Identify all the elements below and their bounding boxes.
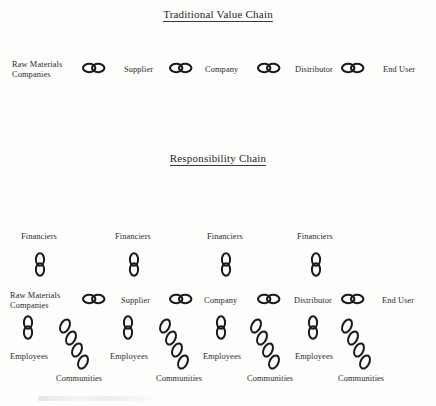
chain-link-icon-financiers-3 bbox=[220, 252, 232, 278]
section-title-traditional-text: Traditional Value Chain bbox=[163, 8, 273, 22]
traditional-node-end-user: End User bbox=[383, 65, 415, 75]
communities-label-4: Communities bbox=[338, 374, 384, 384]
section-title-traditional-value-chain: Traditional Value Chain bbox=[0, 8, 436, 20]
chain-link-icon-communities-3 bbox=[247, 318, 283, 376]
traditional-node-company: Company bbox=[205, 65, 238, 75]
financiers-label-4: Financiers bbox=[297, 232, 333, 242]
chain-link-icon-employees-1 bbox=[22, 315, 34, 341]
traditional-node-raw-materials-companies: Raw Materials Companies bbox=[12, 60, 62, 80]
employees-label-1: Employees bbox=[10, 352, 48, 362]
communities-label-1: Communities bbox=[56, 374, 102, 384]
chain-link-icon-financiers-2 bbox=[128, 252, 140, 278]
chain-link-icon-link-distributor-to-enduser bbox=[341, 293, 365, 305]
chain-link-icon-communities-2 bbox=[156, 318, 192, 376]
chain-link-icon-employees-2 bbox=[122, 315, 134, 341]
chain-link-icon-link-raw-to-supplier bbox=[82, 293, 106, 305]
responsibility-node-supplier: Supplier bbox=[121, 296, 150, 306]
chain-link-icon-communities-4 bbox=[338, 318, 374, 376]
chain-link-icon-financiers-4 bbox=[310, 252, 322, 278]
chain-link-icon-communities-1 bbox=[56, 318, 92, 376]
chain-link-icon-link-raw-to-supplier bbox=[82, 62, 106, 74]
chain-link-icon-link-company-to-distributor bbox=[257, 293, 281, 305]
responsibility-node-raw-materials-companies: Raw Materials Companies bbox=[10, 291, 60, 311]
section-title-responsibility-text: Responsibility Chain bbox=[170, 152, 267, 166]
responsibility-node-distributor: Distributor bbox=[294, 296, 332, 306]
chain-link-icon-employees-4 bbox=[307, 315, 319, 341]
responsibility-node-company: Company bbox=[204, 296, 237, 306]
chain-link-icon-employees-3 bbox=[215, 315, 227, 341]
chain-link-icon-link-distributor-to-enduser bbox=[341, 62, 365, 74]
chain-link-icon-link-company-to-distributor bbox=[257, 62, 281, 74]
chain-link-icon-link-supplier-to-company bbox=[169, 293, 193, 305]
communities-label-2: Communities bbox=[156, 374, 202, 384]
financiers-label-3: Financiers bbox=[207, 232, 243, 242]
financiers-label-2: Financiers bbox=[115, 232, 151, 242]
section-title-responsibility-chain: Responsibility Chain bbox=[0, 152, 436, 164]
diagram-page: Traditional Value Chain Responsibility C… bbox=[0, 0, 436, 406]
responsibility-node-end-user: End User bbox=[382, 296, 414, 306]
employees-label-4: Employees bbox=[295, 352, 333, 362]
traditional-node-distributor: Distributor bbox=[295, 65, 333, 75]
chain-link-icon-link-supplier-to-company bbox=[169, 62, 193, 74]
employees-label-3: Employees bbox=[203, 352, 241, 362]
scan-artifact bbox=[38, 396, 188, 401]
financiers-label-1: Financiers bbox=[21, 232, 57, 242]
communities-label-3: Communities bbox=[247, 374, 293, 384]
traditional-node-supplier: Supplier bbox=[124, 65, 153, 75]
chain-link-icon-financiers-1 bbox=[34, 252, 46, 278]
employees-label-2: Employees bbox=[110, 352, 148, 362]
